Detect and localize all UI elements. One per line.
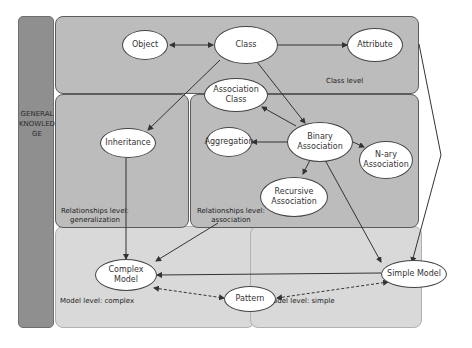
node-binary-association[interactable]: Binary Association <box>287 122 353 162</box>
node-complex-model[interactable]: Complex Model <box>95 259 157 291</box>
node-association-class[interactable]: Association Class <box>204 78 268 112</box>
node-inheritance[interactable]: Inheritance <box>100 128 156 158</box>
node-pattern[interactable]: Pattern <box>224 286 276 312</box>
node-attribute[interactable]: Attribute <box>347 28 403 62</box>
node-recursive-association[interactable]: Recursive Association <box>260 177 328 217</box>
node-nary-association[interactable]: N-ary Association <box>359 141 413 179</box>
node-object[interactable]: Object <box>122 30 168 60</box>
node-simple-model[interactable]: Simple Model <box>381 260 447 288</box>
node-aggregation[interactable]: Aggregation <box>206 127 252 157</box>
node-class[interactable]: Class <box>214 26 278 64</box>
